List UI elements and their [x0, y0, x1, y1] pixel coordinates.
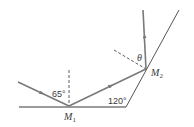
theta-label: θ: [137, 52, 142, 63]
incidence-angle-label: 65°: [52, 89, 66, 99]
mirror-2-label: M 2: [150, 67, 164, 80]
mirror-diagram: 65° 120° θ M 1 M 2: [0, 0, 194, 127]
outgoing-ray: [143, 10, 146, 69]
mirror-1-label: M 1: [63, 111, 77, 124]
svg-text:1: 1: [73, 116, 77, 124]
svg-text:M: M: [150, 67, 160, 78]
mirror-2-surface: [126, 10, 179, 107]
svg-text:2: 2: [160, 72, 164, 80]
svg-text:M: M: [63, 111, 73, 122]
mirror-angle-label: 120°: [108, 96, 127, 106]
